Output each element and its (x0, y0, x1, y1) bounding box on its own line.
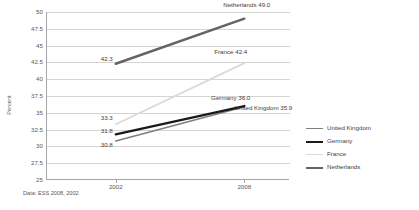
series-line-netherlands (116, 19, 245, 64)
legend-label: Germany (327, 138, 352, 144)
y-axis-tick-label: 25 (36, 177, 43, 183)
legend-item-united-kingdom[interactable]: United Kingdom (306, 122, 418, 135)
y-axis-tick-label: 27.5 (31, 160, 43, 166)
label-uk-2008: United Kingdom 35.9 (235, 105, 293, 111)
y-axis-tick-label: 35 (36, 110, 43, 116)
y-axis-tick-label: 47.5 (31, 26, 43, 32)
y-axis-title: Percent (6, 95, 12, 114)
label-uk-2002: 30.8 (101, 142, 113, 148)
x-axis-tick-label: 2008 (237, 184, 251, 190)
legend-swatch (306, 128, 323, 129)
label-france-2008: France 42.4 (214, 49, 247, 55)
series-line-united-kingdom (116, 107, 245, 141)
legend-item-france[interactable]: France (306, 148, 418, 161)
legend-label: Netherlands (327, 164, 360, 170)
y-axis-tick-label: 45 (36, 42, 43, 48)
x-axis-tick-label: 2002 (109, 184, 123, 190)
y-axis-tick-label: 40 (36, 76, 43, 82)
line-chart: Percent 5047.54542.54037.53532.53027.525… (0, 0, 419, 210)
series-lines (47, 12, 290, 180)
series-line-germany (116, 106, 245, 134)
label-france-2002: 33.3 (101, 115, 113, 121)
legend-swatch (306, 154, 323, 155)
legend-item-germany[interactable]: Germany (306, 135, 418, 148)
source-note: Data: ESS 2008, 2002 (23, 190, 79, 196)
legend-label: United Kingdom (327, 125, 371, 131)
label-netherlands-2002: 42.3 (101, 56, 113, 62)
y-axis-tick-label: 32.5 (31, 126, 43, 132)
label-netherlands-2008: Netherlands 49.0 (223, 2, 270, 8)
y-axis-tick-label: 37.5 (31, 93, 43, 99)
legend: United KingdomGermanyFranceNetherlands (306, 122, 418, 174)
label-germany-2002: 31.8 (101, 128, 113, 134)
legend-swatch (306, 167, 323, 169)
label-germany-2008: Germany 36.0 (211, 95, 250, 101)
legend-label: France (327, 151, 346, 157)
plot-area: 5047.54542.54037.53532.53027.525 2002200… (46, 12, 289, 180)
legend-swatch (306, 141, 323, 143)
legend-item-netherlands[interactable]: Netherlands (306, 161, 418, 174)
y-axis-tick-label: 30 (36, 143, 43, 149)
y-axis-tick-label: 50 (36, 9, 43, 15)
y-axis-tick-label: 42.5 (31, 59, 43, 65)
